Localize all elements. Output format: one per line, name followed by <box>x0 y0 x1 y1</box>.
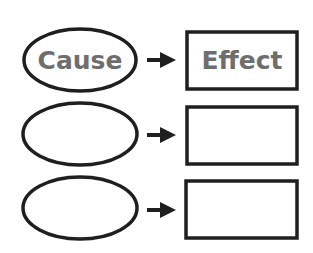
row-1: Cause Effect <box>24 29 297 91</box>
cause-oval-3 <box>23 177 137 239</box>
effect-label-1: Effect <box>201 46 282 75</box>
cause-oval-2 <box>23 103 137 165</box>
row-2 <box>23 103 297 165</box>
row-3 <box>23 177 297 239</box>
cause-effect-diagram: Cause Effect <box>0 0 313 253</box>
cause-label-1: Cause <box>38 46 123 75</box>
effect-box-2 <box>187 107 297 164</box>
effect-box-3 <box>186 181 297 238</box>
